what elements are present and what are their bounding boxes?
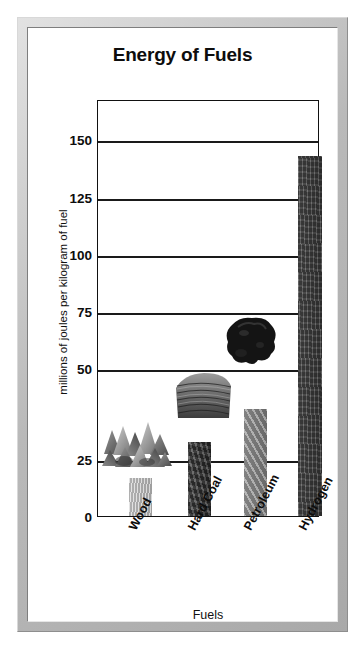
picture-frame: Energy of Fuels 150 125 100 75 50 25 0 m… [17, 17, 348, 632]
wood-photo [102, 414, 172, 468]
petroleum-lump-icon [224, 315, 279, 368]
hard-coal-rock-icon [174, 370, 233, 421]
y-tick-75: 75 [77, 305, 92, 320]
x-axis-title: Fuels [97, 608, 319, 622]
y-axis-title: millions of joules per kilogram of fuel [57, 187, 69, 417]
gridline-150 [98, 141, 318, 143]
chart-card: Energy of Fuels 150 125 100 75 50 25 0 m… [27, 27, 338, 622]
gridline-75 [98, 313, 318, 315]
hard-coal-photo [174, 370, 233, 421]
plot-area [97, 100, 319, 517]
y-tick-125: 125 [69, 191, 92, 206]
gridline-100 [98, 256, 318, 258]
bar-hydrogen[interactable] [298, 156, 322, 516]
chart-area: 150 125 100 75 50 25 0 millions of joule… [28, 28, 337, 621]
y-tick-100: 100 [69, 248, 92, 263]
gridline-125 [98, 199, 318, 201]
y-tick-50: 50 [77, 362, 92, 377]
petroleum-photo [224, 315, 279, 368]
y-tick-25: 25 [77, 453, 92, 468]
wood-logs-icon [102, 414, 172, 468]
y-tick-150: 150 [69, 133, 92, 148]
y-tick-0: 0 [84, 510, 92, 525]
